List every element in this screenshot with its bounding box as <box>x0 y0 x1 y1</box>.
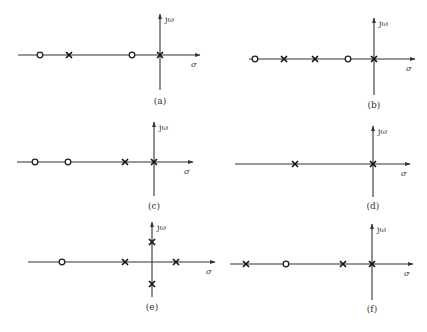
panel-caption: (b) <box>368 100 381 110</box>
zero-marker-icon <box>345 56 351 62</box>
panel-b: jωσ(b) <box>249 18 415 110</box>
panel-d: jωσ(d) <box>235 126 410 211</box>
real-axis-label: σ <box>191 60 197 69</box>
real-axis-label: σ <box>406 64 412 73</box>
panel-caption: (a) <box>154 96 166 106</box>
zero-marker-icon <box>32 159 38 165</box>
imag-axis-label: jω <box>158 123 168 132</box>
panel-caption: (d) <box>367 201 380 211</box>
real-axis-label: σ <box>206 267 212 276</box>
zero-marker-icon <box>252 56 258 62</box>
imag-axis-label: jω <box>377 127 387 136</box>
panels-group: jωσ(a)jωσ(b)jωσ(c)jωσ(d)jωσ(e)jωσ(f) <box>17 14 415 314</box>
zero-marker-icon <box>129 52 135 58</box>
panel-e: jωσ(e) <box>28 222 215 312</box>
panel-c: jωσ(c) <box>17 122 193 211</box>
real-axis-label: σ <box>184 167 190 176</box>
real-axis-label: σ <box>404 269 410 278</box>
imag-axis-label: jω <box>164 15 174 24</box>
pole-zero-diagrams: jωσ(a)jωσ(b)jωσ(c)jωσ(d)jωσ(e)jωσ(f) <box>0 0 427 332</box>
zero-marker-icon <box>59 259 65 265</box>
panel-caption: (c) <box>148 201 160 211</box>
panel-caption: (e) <box>146 302 158 312</box>
zero-marker-icon <box>283 261 289 267</box>
zero-marker-icon <box>65 159 71 165</box>
imag-axis-label: jω <box>156 223 166 232</box>
panel-caption: (f) <box>367 304 377 314</box>
imag-axis-label: jω <box>378 19 388 28</box>
zero-marker-icon <box>37 52 43 58</box>
panel-f: jωσ(f) <box>230 224 413 314</box>
panel-a: jωσ(a) <box>18 14 200 106</box>
imag-axis-label: jω <box>376 225 386 234</box>
real-axis-label: σ <box>401 169 407 178</box>
